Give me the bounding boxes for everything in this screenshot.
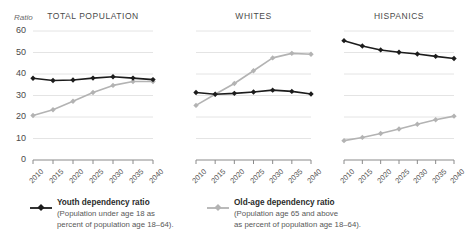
y-axis-tick-label: 0 — [4, 154, 26, 164]
data-point-marker — [378, 47, 383, 52]
dependency-ratio-chart: Ratio Youth dependency ratio (Population… — [0, 0, 468, 241]
legend-oldage-marker-icon — [207, 203, 231, 213]
y-axis-tick-label: 10 — [4, 133, 26, 143]
series-line — [196, 53, 311, 105]
data-point-marker — [50, 107, 55, 112]
data-point-marker — [90, 75, 95, 80]
legend-oldage-sub-line1: (Population age 65 and above — [234, 209, 361, 220]
data-point-marker — [451, 113, 456, 118]
data-point-marker — [50, 78, 55, 83]
data-point-marker — [70, 99, 75, 104]
data-point-marker — [341, 38, 346, 43]
legend-youth-title: Youth dependency ratio — [57, 198, 174, 207]
data-point-marker — [451, 56, 456, 61]
data-point-marker — [360, 135, 365, 140]
panel-title: HISPANICS — [344, 11, 454, 21]
data-point-marker — [90, 90, 95, 95]
y-axis-tick-label: 20 — [4, 111, 26, 121]
data-point-marker — [433, 54, 438, 59]
data-point-marker — [270, 87, 275, 92]
data-point-marker — [251, 89, 256, 94]
panel-title: WHITES — [196, 11, 311, 21]
series-line — [33, 82, 153, 116]
data-point-marker — [110, 83, 115, 88]
data-point-marker — [396, 126, 401, 131]
data-point-marker — [30, 76, 35, 81]
legend-oldage-title: Old-age dependency ratio — [234, 198, 361, 207]
data-point-marker — [289, 89, 294, 94]
panel-title: TOTAL POPULATION — [33, 11, 153, 21]
y-axis-tick-label: 60 — [4, 25, 26, 35]
data-point-marker — [415, 122, 420, 127]
data-point-marker — [110, 74, 115, 79]
data-point-marker — [193, 90, 198, 95]
data-point-marker — [360, 43, 365, 48]
data-point-marker — [289, 51, 294, 56]
data-point-marker — [70, 77, 75, 82]
data-point-marker — [396, 50, 401, 55]
legend-oldage-sub-line2: as percent of population age 18–64). — [234, 220, 361, 231]
y-axis-tick-label: 40 — [4, 68, 26, 78]
data-point-marker — [130, 75, 135, 80]
y-axis-tick-label: 50 — [4, 47, 26, 57]
legend-youth-sub-line2: percent of population age 18–64). — [57, 220, 174, 231]
y-axis-tick-label: 30 — [4, 90, 26, 100]
data-point-marker — [433, 117, 438, 122]
legend-youth-sub-line1: (Population under age 18 as — [57, 209, 174, 220]
data-point-marker — [378, 131, 383, 136]
legend-youth-marker-icon — [30, 203, 54, 213]
